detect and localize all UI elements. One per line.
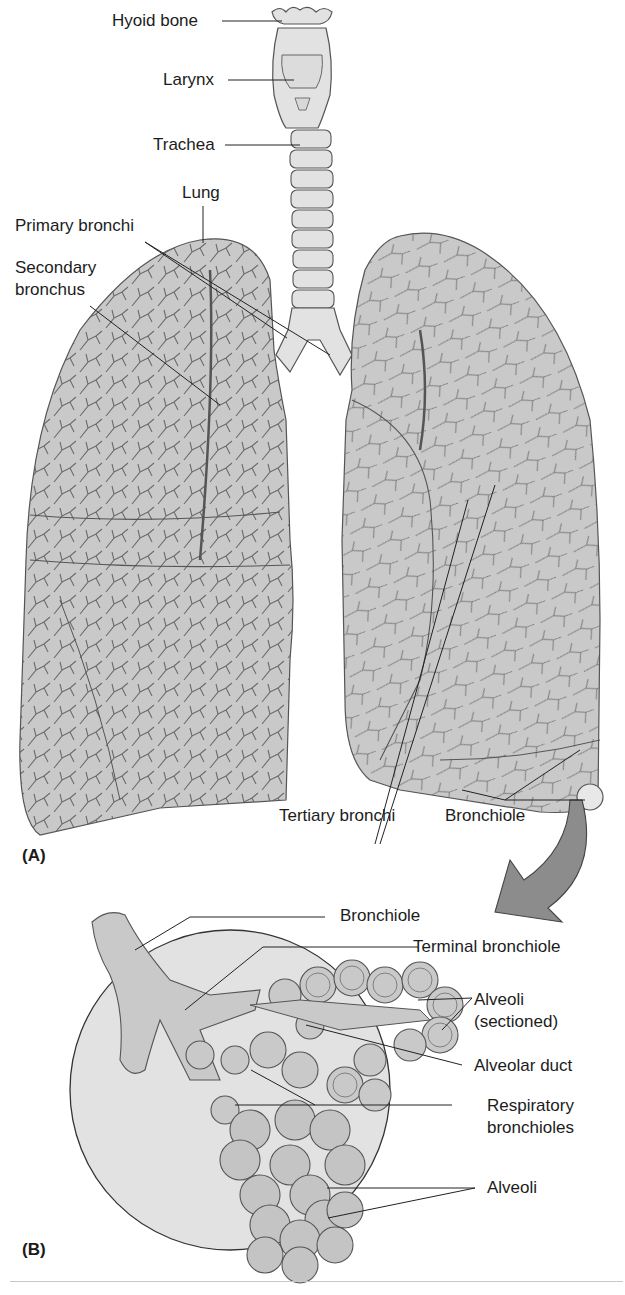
label-respiratory-bronchioles-line1: Respiratory [487,1096,574,1116]
label-lung: Lung [182,183,220,203]
label-tertiary-bronchi: Tertiary bronchi [279,806,395,826]
bottom-divider [10,1281,623,1282]
label-alveoli-sectioned-line2: (sectioned) [474,1012,558,1032]
panel-tag-b: (B) [22,1240,46,1260]
right-lung-shape [20,239,293,835]
label-alveoli: Alveoli [487,1178,537,1198]
label-primary-bronchi: Primary bronchi [15,216,134,236]
hyoid-bone-shape [272,7,332,24]
left-lung-shape [342,233,603,812]
label-trachea: Trachea [153,135,215,155]
alveoli-detail [70,913,463,1283]
label-alveolar-duct: Alveolar duct [474,1056,572,1076]
label-respiratory-bronchioles-line2: bronchioles [487,1118,574,1138]
label-secondary-bronchus-line1: Secondary [15,258,96,278]
label-terminal-bronchiole: Terminal bronchiole [413,937,560,957]
label-secondary-bronchus-line2: bronchus [15,280,85,300]
larynx-trachea [272,7,352,375]
label-alveoli-sectioned-line1: Alveoli [474,990,524,1010]
label-larynx: Larynx [163,70,214,90]
label-bronchiole-b: Bronchiole [340,906,420,926]
label-bronchiole-a: Bronchiole [445,806,525,826]
panel-tag-a: (A) [22,846,46,866]
label-hyoid-bone: Hyoid bone [112,11,198,31]
